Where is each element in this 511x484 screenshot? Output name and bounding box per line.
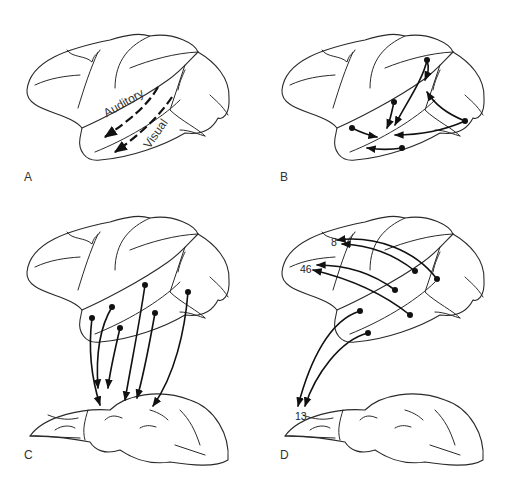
panel-c [27,216,229,465]
diagram-canvas [0,0,511,484]
area-8-label: 8 [331,236,337,248]
panel-d-label: D [280,448,289,462]
panel-b [282,34,484,160]
panel-d [282,216,484,465]
panel-b-label: B [280,170,288,184]
area-46-label: 46 [300,263,312,275]
panel-c-label: C [24,448,33,462]
panel-a-label: A [24,170,32,184]
area-13-label: 13 [295,410,307,422]
